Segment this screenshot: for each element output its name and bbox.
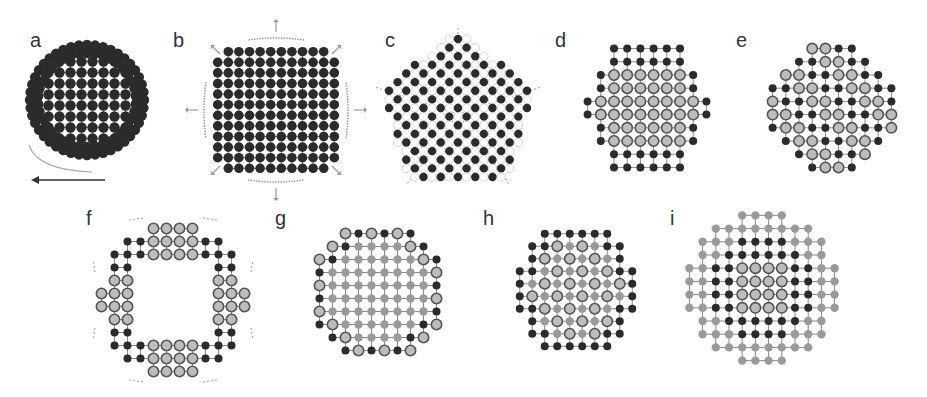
lattice-panel-d — [547, 8, 747, 208]
lattice-panel-c — [358, 8, 558, 208]
lattice-panel-g — [278, 192, 478, 392]
lattice-panel-e — [732, 8, 927, 208]
lattice-panel-b — [176, 10, 376, 210]
lattice-panel-a-with-rotation-arrow — [0, 0, 187, 200]
lattice-figure: abcdefghi — [0, 0, 927, 397]
lattice-panel-i — [662, 188, 862, 388]
lattice-panel-f — [73, 200, 273, 397]
lattice-panel-h — [476, 190, 676, 390]
